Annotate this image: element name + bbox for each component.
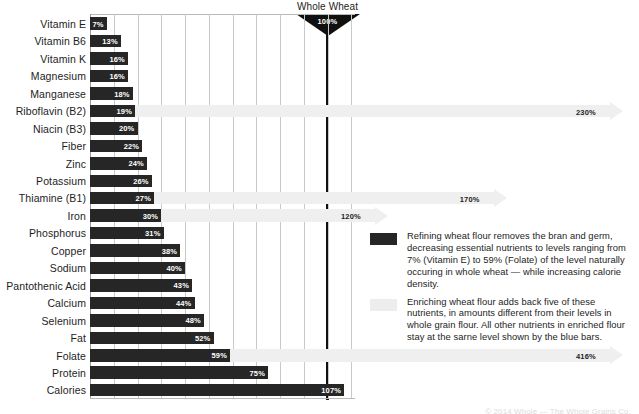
gridline <box>280 14 281 398</box>
enrichment-arrow-head <box>610 102 623 120</box>
bar-value-label: 30% <box>143 211 159 220</box>
bar: 16% <box>90 52 128 65</box>
bar-value-label: 48% <box>185 316 201 325</box>
plot-top-border <box>90 14 355 15</box>
category-label: Iron <box>0 210 86 223</box>
bar: 26% <box>90 175 152 188</box>
legend-swatch-light <box>370 299 397 311</box>
legend-text: Enriching wheat flour adds back five of … <box>407 296 632 344</box>
bar: 24% <box>90 157 147 170</box>
bar: 75% <box>90 366 268 379</box>
enrichment-value-label: 120% <box>341 212 361 221</box>
legend-item: Refining wheat flour removes the bran an… <box>370 230 632 290</box>
bar: 30% <box>90 209 161 222</box>
bar-value-label: 40% <box>166 264 182 273</box>
category-label: Riboflavin (B2) <box>0 105 86 118</box>
enrichment-value-label: 230% <box>576 108 596 117</box>
bar-value-label: 13% <box>102 37 118 46</box>
bar-value-label: 20% <box>119 124 135 133</box>
bar: 18% <box>90 87 133 100</box>
category-label: Potassium <box>0 175 86 188</box>
bar-value-label: 19% <box>117 106 133 115</box>
gridline <box>233 14 234 398</box>
category-label: Selenium <box>0 315 86 328</box>
category-label: Magnesium <box>0 70 86 83</box>
bar-value-label: 16% <box>109 72 125 81</box>
category-label: Folate <box>0 350 86 363</box>
category-label: Protein <box>0 367 86 380</box>
category-label: Vitamin B6 <box>0 35 86 48</box>
bar: 107% <box>90 384 344 397</box>
bar: 38% <box>90 244 180 257</box>
bar-value-label: 43% <box>174 281 190 290</box>
gridline <box>351 14 352 398</box>
enrichment-value-label: 416% <box>576 352 596 361</box>
bar-value-label: 38% <box>162 246 178 255</box>
category-label: Niacin (B3) <box>0 123 86 136</box>
bar: 27% <box>90 192 154 205</box>
category-label: Calories <box>0 384 86 397</box>
bar-value-label: 24% <box>128 159 144 168</box>
bar-value-label: 7% <box>92 19 103 28</box>
bar-value-label: 44% <box>176 298 192 307</box>
plot-area: 230%170%120%416%7%13%16%16%18%19%20%22%2… <box>90 14 355 398</box>
category-label: Vitamin K <box>0 53 86 66</box>
legend-swatch-dark <box>370 233 397 245</box>
bar-value-label: 31% <box>145 229 161 238</box>
bar-value-label: 26% <box>133 176 149 185</box>
bar-value-label: 22% <box>124 141 140 150</box>
bar-value-label: 59% <box>212 351 228 360</box>
category-label: Fiber <box>0 140 86 153</box>
bar: 19% <box>90 105 135 118</box>
bar: 52% <box>90 332 214 345</box>
category-label: Sodium <box>0 262 86 275</box>
bar-value-label: 16% <box>109 54 125 63</box>
bar-value-label: 107% <box>321 386 341 395</box>
bar: 40% <box>90 262 185 275</box>
bar: 16% <box>90 70 128 83</box>
bar: 44% <box>90 297 195 310</box>
bar: 31% <box>90 227 164 240</box>
bar-value-label: 75% <box>250 368 266 377</box>
bar: 59% <box>90 349 230 362</box>
bar: 43% <box>90 279 192 292</box>
bar-value-label: 52% <box>195 333 211 342</box>
plot-bottom-border <box>90 398 355 399</box>
bar: 48% <box>90 314 204 327</box>
gridline <box>256 14 257 398</box>
legend-text: Refining wheat flour removes the bran an… <box>407 230 632 290</box>
chart-legend: Refining wheat flour removes the bran an… <box>370 230 632 349</box>
bar: 20% <box>90 122 138 135</box>
category-label: Fat <box>0 332 86 345</box>
bar: 13% <box>90 35 121 48</box>
bar: 7% <box>90 17 107 30</box>
enrichment-arrow-band <box>90 105 610 118</box>
bar-value-label: 27% <box>136 194 152 203</box>
category-label: Zinc <box>0 158 86 171</box>
category-label: Phosphorus <box>0 227 86 240</box>
footer-credit: © 2014 Whole — The Whole Grains Co. <box>485 407 631 414</box>
gridline <box>328 14 329 398</box>
chart-canvas: Whole Wheat 100% Vitamin EVitamin B6Vita… <box>0 0 639 414</box>
category-label: Vitamin E <box>0 18 86 31</box>
category-axis: Vitamin EVitamin B6Vitamin KMagnesiumMan… <box>0 14 86 398</box>
legend-item: Enriching wheat flour adds back five of … <box>370 296 632 344</box>
bar-value-label: 18% <box>114 89 130 98</box>
category-label: Pantothenic Acid <box>0 280 86 293</box>
gridline <box>304 14 305 398</box>
category-label: Calcium <box>0 297 86 310</box>
category-label: Manganese <box>0 88 86 101</box>
category-label: Copper <box>0 245 86 258</box>
enrichment-arrow-head <box>494 189 507 207</box>
enrichment-value-label: 170% <box>460 195 480 204</box>
enrichment-arrow-head <box>375 207 388 225</box>
bar: 22% <box>90 140 142 153</box>
category-label: Thiamine (B1) <box>0 192 86 205</box>
corner-artifact <box>6 4 12 10</box>
reference-line-title: Whole Wheat <box>268 1 388 12</box>
